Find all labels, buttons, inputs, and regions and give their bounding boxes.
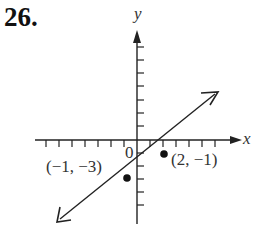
point-label-2-neg1: (2, −1) <box>171 150 217 170</box>
y-axis-label: y <box>134 4 142 24</box>
origin-label: 0 <box>125 143 134 163</box>
point-neg1-neg3 <box>123 174 131 182</box>
x-axis-arrow-icon <box>230 136 242 144</box>
line-arrow-left-icon <box>57 207 71 222</box>
coordinate-plot <box>0 0 262 228</box>
point-label-neg1-neg3: (−1, −3) <box>46 157 102 177</box>
y-ticks <box>137 47 144 205</box>
point-2-neg1 <box>160 150 168 158</box>
y-axis-arrow-icon <box>133 30 141 43</box>
x-axis-label: x <box>243 129 251 149</box>
